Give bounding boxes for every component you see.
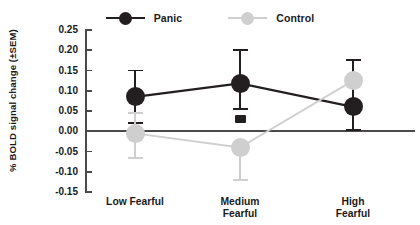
x-axis-label: HighFearful (293, 196, 413, 219)
y-axis-tick-label: 0.00 (30, 125, 78, 136)
error-bar-cap (233, 179, 248, 181)
legend-label-control: Control (276, 12, 314, 24)
chart-title-cropped (0, 0, 420, 7)
y-axis-tick-label: -0.15 (30, 186, 78, 197)
y-axis-tick-label: 0.15 (30, 65, 78, 76)
plot-area (85, 30, 415, 192)
error-bar-cap (128, 157, 143, 159)
error-bar-cap (233, 49, 248, 51)
data-point-control (231, 138, 250, 157)
y-axis-tick-label: 0.10 (30, 85, 78, 96)
data-point-panic (231, 74, 250, 93)
legend-item-control: Control (228, 12, 314, 25)
black-square-marker (235, 115, 246, 123)
y-axis-title: % BOLD signal change (±SEM) (7, 16, 18, 186)
error-bar-cap (233, 108, 248, 110)
error-bar-cap (128, 70, 143, 72)
error-bar-cap (128, 112, 143, 114)
x-axis-label: MediumFearful (180, 196, 300, 219)
y-axis-tick-label: -0.05 (30, 146, 78, 157)
y-axis-tick-label: -0.10 (30, 166, 78, 177)
legend-item-panic: Panic (106, 12, 183, 25)
y-axis-tick-label: 0.25 (30, 24, 78, 35)
data-point-panic (126, 87, 145, 106)
legend-label-panic: Panic (154, 12, 183, 24)
x-axis-label: Low Fearful (75, 196, 195, 208)
error-bar-cap (346, 59, 361, 61)
y-axis-tick-label: 0.05 (30, 105, 78, 116)
x-axis-tick-labels: Low FearfulMediumFearfulHighFearful (85, 196, 415, 225)
legend-line-control-right (252, 17, 267, 20)
error-bar-cap (346, 129, 361, 131)
error-bar-vertical (352, 60, 354, 130)
figure-chart: Panic Control % BOLD signal change (±SEM… (0, 0, 420, 225)
data-point-control (344, 71, 363, 90)
data-point-panic (344, 97, 363, 116)
legend-line-panic-right (130, 17, 145, 20)
data-point-control (126, 124, 145, 143)
y-axis-tick-label: 0.20 (30, 44, 78, 55)
